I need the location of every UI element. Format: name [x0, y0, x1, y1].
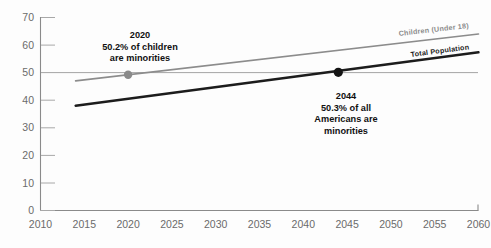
annotation-2020: 2020 50.2% of children are minorities	[79, 30, 201, 65]
annotation-2020-line2: 50.2% of children	[79, 42, 201, 54]
x-tick-label: 2020	[116, 218, 140, 230]
x-tick-label: 2015	[73, 218, 97, 230]
annotation-2044: 2044 50.3% of all Americans are minoriti…	[281, 91, 411, 137]
y-tick-label: 10	[22, 177, 34, 189]
series-label-children: Children (Under 18)	[398, 21, 469, 38]
x-tick-label: 2025	[160, 218, 184, 230]
x-tick-labels: 2010 2015 2020 2025 2030 2035 2040 2045 …	[29, 218, 491, 230]
annotation-2044-line2: 50.3% of all	[281, 103, 411, 115]
x-tick-label: 2055	[423, 218, 447, 230]
data-point-2044-total-population	[334, 68, 343, 77]
y-tick-label: 70	[22, 11, 34, 23]
x-tick-label: 2040	[292, 218, 316, 230]
y-tick-marks	[41, 18, 55, 211]
x-tick-label: 2050	[379, 218, 403, 230]
annotation-2020-line3: are minorities	[79, 53, 201, 65]
x-tick-label: 2030	[204, 218, 228, 230]
y-tick-label: 40	[22, 94, 34, 106]
y-tick-label: 0	[28, 204, 34, 216]
y-tick-label: 50	[22, 66, 34, 78]
annotation-2044-line3: Americans are	[281, 114, 411, 126]
y-tick-label: 60	[22, 39, 34, 51]
x-tick-label: 2035	[248, 218, 272, 230]
y-tick-label: 30	[22, 121, 34, 133]
x-tick-label: 2045	[335, 218, 359, 230]
annotation-2044-line4: minorities	[281, 126, 411, 138]
y-tick-labels: 0 10 20 30 40 50 60 70	[22, 11, 34, 216]
y-tick-label: 20	[22, 149, 34, 161]
x-tick-label: 2060	[467, 218, 491, 230]
data-point-2020-children	[124, 71, 132, 79]
chart-container: 0 10 20 30 40 50 60 70 2010 2015 2020 20…	[0, 0, 491, 248]
annotation-2020-year: 2020	[79, 30, 201, 42]
x-tick-label: 2010	[29, 218, 53, 230]
line-chart: 0 10 20 30 40 50 60 70 2010 2015 2020 20…	[0, 0, 491, 248]
annotation-2044-year: 2044	[281, 91, 411, 103]
